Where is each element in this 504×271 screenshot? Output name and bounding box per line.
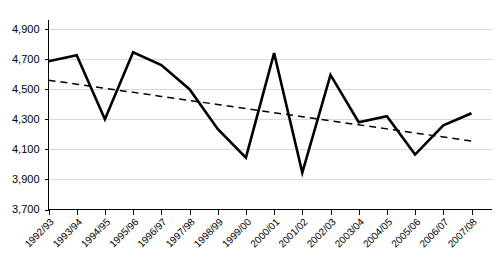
- x-axis-tick-label: 1994/95: [79, 216, 113, 250]
- y-axis-tick-label: 4,700: [12, 53, 40, 65]
- gridlines-group: [45, 30, 493, 211]
- x-axis-tick-label: 1996/97: [135, 216, 169, 250]
- x-axis-tick-label: 1995/96: [107, 216, 141, 250]
- x-axis-tick-label: 2001/02: [276, 216, 310, 250]
- x-axis-tick-label: 2000/01: [248, 216, 282, 250]
- x-axis-tick-label: 2003/04: [333, 216, 367, 250]
- x-axis-tick-label: 2002/03: [305, 216, 339, 250]
- x-axis-tick-label: 1992/93: [23, 216, 57, 250]
- x-axis-tick-label: 2007/08: [446, 216, 480, 250]
- y-axis-tick-label: 3,900: [12, 173, 40, 185]
- y-axis-tick-label: 4,300: [12, 113, 40, 125]
- x-axis-tick-label: 2004/05: [361, 216, 395, 250]
- x-axis-tick-label: 2005/06: [389, 216, 423, 250]
- x-axis-tick-label: 1998/99: [192, 216, 226, 250]
- x-axis-tick-label: 1993/94: [51, 216, 85, 250]
- main-line-series: [49, 52, 472, 172]
- y-axis-tick-labels: 4,9004,7004,5004,3004,1003,9003,700: [12, 23, 40, 216]
- x-axis-tick-label: 1997/98: [164, 216, 198, 250]
- y-axis-tick-label: 3,700: [12, 203, 40, 215]
- x-axis-tick-labels: 1992/931993/941994/951995/961996/971997/…: [23, 216, 480, 250]
- y-axis-tick-label: 4,900: [12, 23, 40, 35]
- x-axis-tick-label: 2006/07: [417, 216, 451, 250]
- x-axis-tick-label: 1999/00: [220, 216, 254, 250]
- y-axis-tick-label: 4,500: [12, 83, 40, 95]
- line-chart: 4,9004,7004,5004,3004,1003,9003,700 1992…: [0, 0, 504, 271]
- chart-canvas: 4,9004,7004,5004,3004,1003,9003,700 1992…: [0, 0, 504, 271]
- y-axis-tick-label: 4,100: [12, 143, 40, 155]
